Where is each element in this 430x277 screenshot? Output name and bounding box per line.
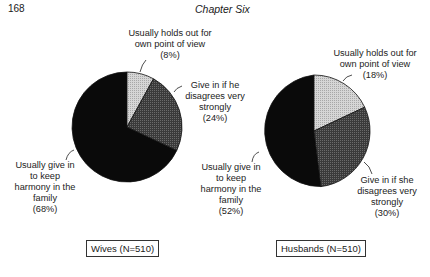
wives-pie bbox=[66, 60, 182, 182]
husbands-title-box: Husbands (N=510) bbox=[276, 240, 366, 257]
husbands-slice-harmony bbox=[265, 75, 321, 187]
husbands-label-give-in-disagree: Give in if she disagrees very strongly (… bbox=[352, 175, 422, 219]
wives-label-harmony: Usually give in to keep harmony in the f… bbox=[12, 160, 78, 215]
wives-title-box: Wives (N=510) bbox=[86, 240, 159, 257]
husbands-pie bbox=[252, 75, 372, 187]
wives-label-holds-out: Usually holds out for own point of view … bbox=[120, 28, 220, 61]
figure-caption-cutoff bbox=[8, 272, 422, 277]
husbands-label-holds-out: Usually holds out for own point of view … bbox=[325, 48, 425, 81]
wives-label-give-in-disagree: Give in if he disagrees very strongly (2… bbox=[182, 80, 248, 124]
husbands-label-harmony: Usually give in to keep harmony in the f… bbox=[198, 162, 264, 217]
